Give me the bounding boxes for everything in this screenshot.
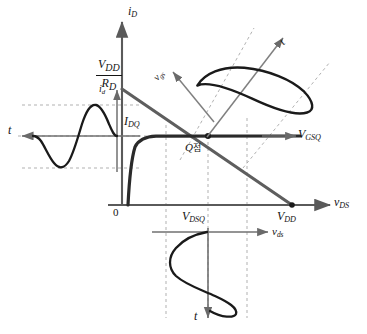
figure-container: iD VDD RD id IDQ t vgs t Q점 VGSQ 0 vDS xyxy=(0,0,367,334)
vds-sinusoid-waveform xyxy=(170,232,236,317)
label-id-small-signal: id xyxy=(99,84,105,95)
vdd-intercept-marker xyxy=(289,202,295,208)
diagram-canvas xyxy=(0,0,367,334)
label-t-bottom: t xyxy=(194,310,197,322)
label-vds-axis: vDS xyxy=(334,196,349,210)
label-vdd: VDD xyxy=(277,210,296,224)
vgs-sinusoid-loop xyxy=(195,57,313,127)
label-id-axis: iD xyxy=(128,5,137,19)
label-vds-small-signal: vds xyxy=(272,226,283,238)
dashed-vgs-bound-upper xyxy=(243,62,330,168)
dc-load-line xyxy=(122,89,292,205)
label-vgsq: VGSQ xyxy=(298,128,321,142)
label-vdsq: VDSQ xyxy=(182,210,205,224)
label-idq: IDQ xyxy=(124,115,139,129)
diagonal-signal-group xyxy=(173,38,313,137)
axis-vgs-diagonal xyxy=(173,72,214,122)
axis-t-diagonal xyxy=(207,38,283,137)
bottom-waveform-group xyxy=(152,228,268,318)
label-q-point: Q점 xyxy=(185,142,201,153)
label-t-left: t xyxy=(8,124,11,136)
label-origin: 0 xyxy=(113,207,119,218)
